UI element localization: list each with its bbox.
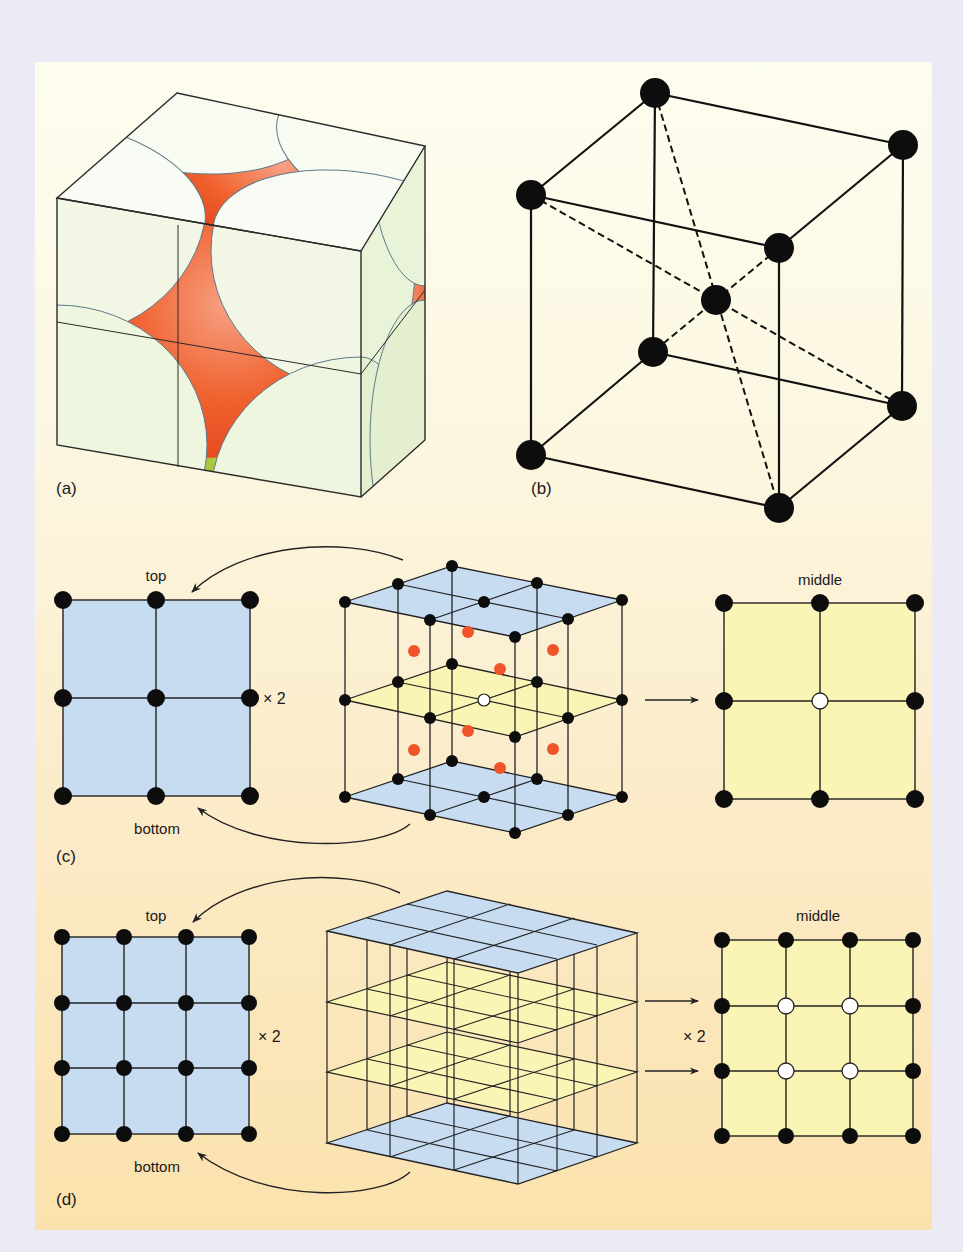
panel-d-middle-layer: middle xyxy=(714,907,921,1144)
atom-corner xyxy=(764,493,794,523)
atom-corner xyxy=(764,233,794,263)
panel-c: top bottom × 2 xyxy=(54,547,924,866)
arrow-to-top-layer xyxy=(192,547,403,592)
atom-open xyxy=(478,694,490,706)
panel-c-top-bottom-layer: top bottom × 2 xyxy=(54,567,286,837)
atom-corner xyxy=(638,337,668,367)
panel-a-sphere-cube: (a) xyxy=(0,0,586,637)
atom-corner xyxy=(516,180,546,210)
atom-corner xyxy=(888,130,918,160)
panel-c-3d-lattice xyxy=(339,560,628,839)
arrow-to-bottom-layer xyxy=(198,808,410,844)
panel-b-bcc-unit-cell: (b) xyxy=(516,78,918,523)
atom-corner xyxy=(640,78,670,108)
label-multiplier-left: × 2 xyxy=(258,1028,281,1045)
atom-corner xyxy=(516,440,546,470)
panel-d-top-bottom-layer: top bottom × 2 xyxy=(54,907,281,1175)
label-middle: middle xyxy=(798,571,842,588)
label-top: top xyxy=(146,567,167,584)
panel-c-middle-layer: middle xyxy=(715,571,924,808)
panel-label-b: (b) xyxy=(531,479,552,498)
label-bottom: bottom xyxy=(134,820,180,837)
arrow-to-bottom-layer xyxy=(198,1153,410,1193)
atom-corner xyxy=(887,391,917,421)
panel-d: top bottom × 2 xyxy=(54,877,921,1209)
crystal-structure-figure: (a) xyxy=(0,0,963,1252)
panel-label-d: (d) xyxy=(56,1190,77,1209)
arrow-to-top-layer xyxy=(193,877,400,922)
panel-label-a: (a) xyxy=(56,479,77,498)
label-bottom: bottom xyxy=(134,1158,180,1175)
atom-body-center xyxy=(701,285,731,315)
label-multiplier-right: × 2 xyxy=(683,1028,706,1045)
atom-open xyxy=(812,693,828,709)
label-middle: middle xyxy=(796,907,840,924)
label-top: top xyxy=(146,907,167,924)
label-multiplier: × 2 xyxy=(263,690,286,707)
panel-d-3d-lattice xyxy=(327,891,637,1184)
unit-cell-atoms xyxy=(516,78,918,523)
panel-label-c: (c) xyxy=(56,847,76,866)
